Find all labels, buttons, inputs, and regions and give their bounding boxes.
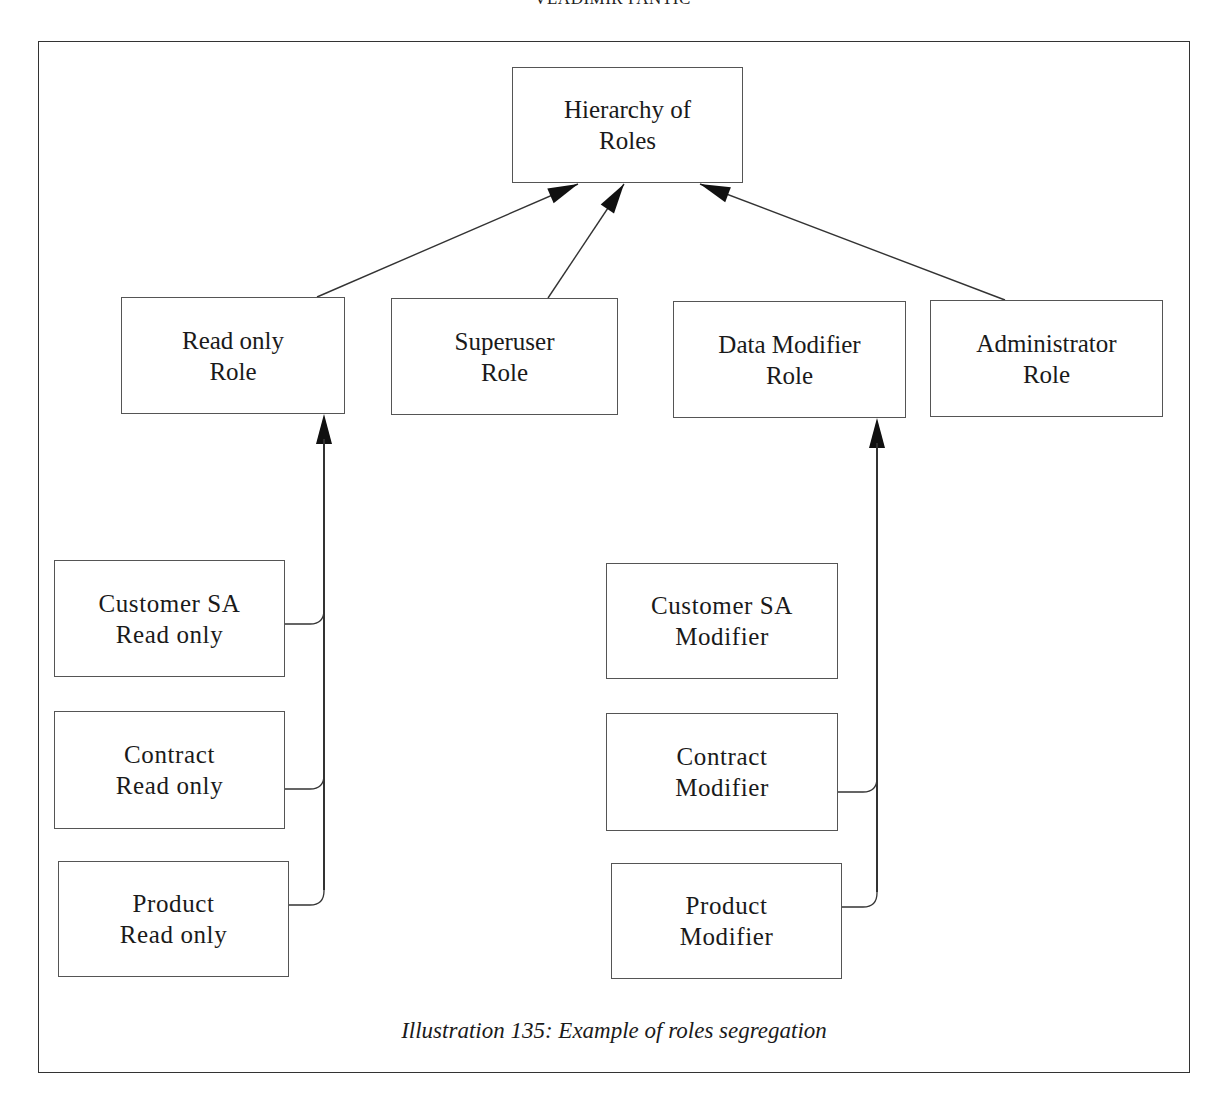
figure-caption: Illustration 135: Example of roles segre… [38, 1018, 1190, 1044]
node-read-only-role[interactable]: Read only Role [121, 297, 345, 414]
node-customer-sa-read-only[interactable]: Customer SA Read only [54, 560, 285, 677]
node-contract-modifier[interactable]: Contract Modifier [606, 713, 838, 831]
node-label: Product Modifier [680, 890, 774, 952]
node-administrator-role[interactable]: Administrator Role [930, 300, 1163, 417]
running-head: VLADIMIR PANTIC [0, 0, 1225, 9]
node-label: Contract Read only [116, 739, 223, 801]
node-product-modifier[interactable]: Product Modifier [611, 863, 842, 979]
node-data-modifier-role[interactable]: Data Modifier Role [673, 301, 906, 418]
node-customer-sa-modifier[interactable]: Customer SA Modifier [606, 563, 838, 679]
node-label: Read only Role [182, 325, 284, 387]
node-label: Data Modifier Role [718, 329, 860, 391]
node-label: Customer SA Modifier [651, 590, 793, 652]
node-superuser-role[interactable]: Superuser Role [391, 298, 618, 415]
node-label: Superuser Role [455, 326, 555, 388]
node-product-read-only[interactable]: Product Read only [58, 861, 289, 977]
node-label: Administrator Role [976, 328, 1116, 390]
node-contract-read-only[interactable]: Contract Read only [54, 711, 285, 829]
node-label: Hierarchy of Roles [564, 94, 691, 156]
node-hierarchy-of-roles[interactable]: Hierarchy of Roles [512, 67, 743, 183]
node-label: Contract Modifier [675, 741, 769, 803]
node-label: Customer SA Read only [98, 588, 240, 650]
node-label: Product Read only [120, 888, 227, 950]
